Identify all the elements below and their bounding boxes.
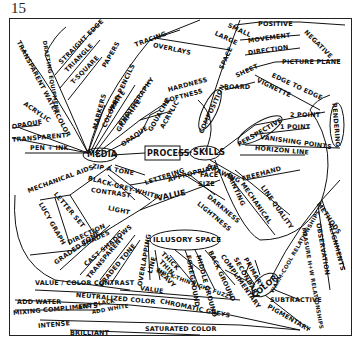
label-2-point: 2 POINT	[290, 112, 320, 118]
label-brilliant: BRILLIANT	[70, 330, 109, 336]
label-size: SIZE	[198, 181, 215, 187]
label-subtractive: SUBTRACTIVE	[270, 297, 322, 303]
label-picture-plane: PICTURE PLANE	[282, 59, 341, 65]
hub-media: MEDIA	[87, 151, 117, 159]
label-1-point: 1 POINT	[280, 124, 310, 130]
label-pen-ink: PEN + INK	[30, 145, 69, 151]
label-saturated-color: SATURATED COLOR	[145, 326, 217, 332]
label-face: FACE	[200, 172, 218, 178]
hub-illusory-space: ILLUSORY SPACE	[153, 237, 221, 244]
hub-skills: SKILLS	[193, 149, 225, 157]
hub-process: PROCESS	[147, 150, 190, 158]
label-board: BOARD	[224, 84, 250, 90]
label-value-color-contrast: VALUE / COLOR CONTRAST	[35, 280, 134, 286]
label-positive: POSITIVE	[258, 21, 293, 27]
